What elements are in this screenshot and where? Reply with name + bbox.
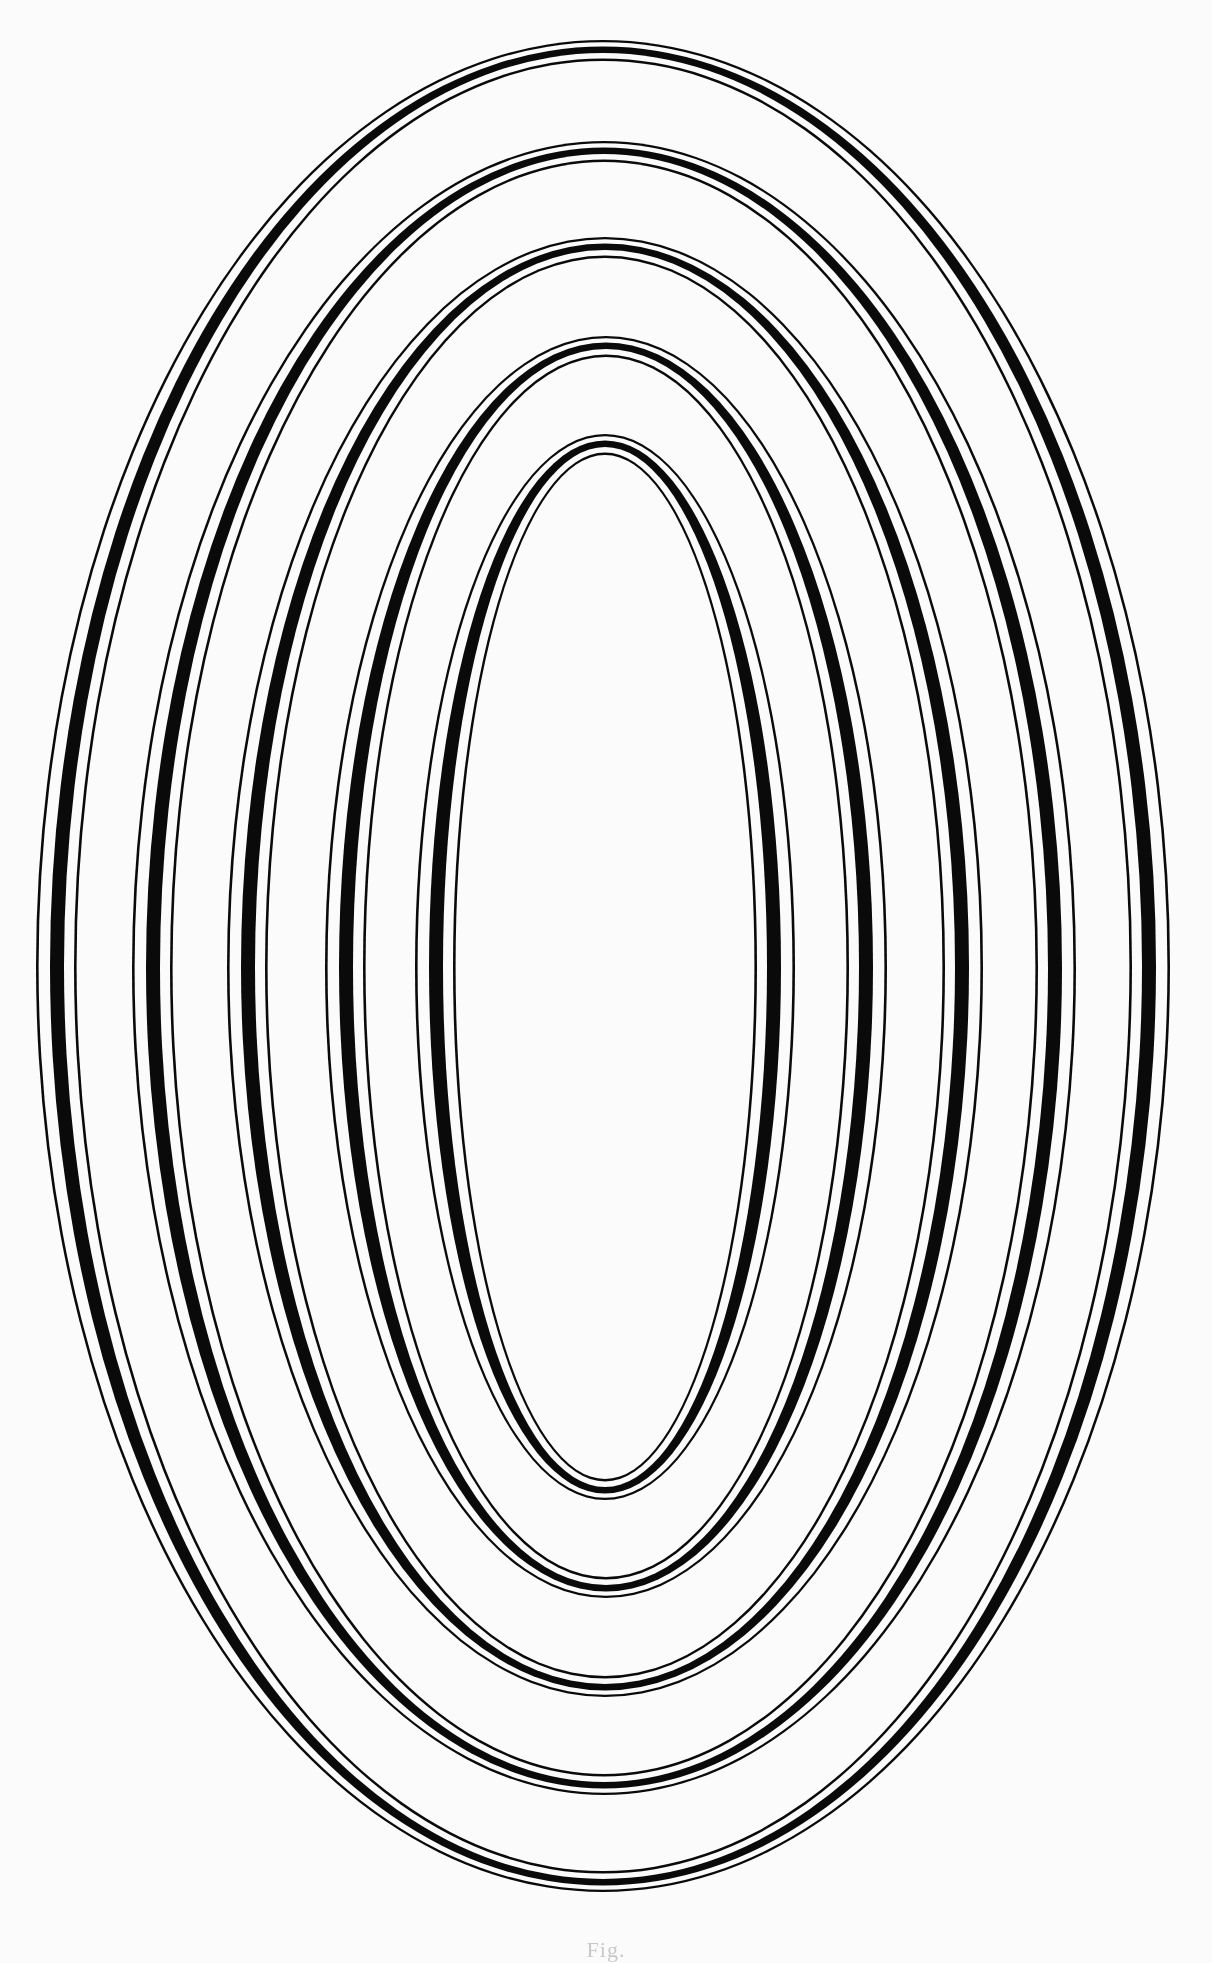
figure-caption-clipped: Fig. xyxy=(0,1937,1212,1963)
ellipse-ring-5 xyxy=(415,434,795,1500)
